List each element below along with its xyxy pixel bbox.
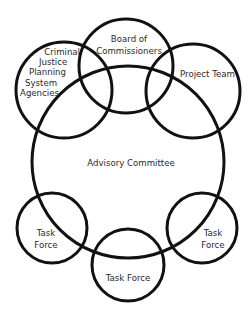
- task-force-right-label: Task Force: [201, 228, 224, 250]
- cj-line-4: System: [25, 78, 57, 88]
- project-team-label: Project Team: [180, 69, 235, 79]
- tf-left-line-1: Task: [36, 228, 56, 238]
- board-line-1: Board of: [111, 34, 148, 44]
- tf-right-line-2: Force: [201, 240, 224, 250]
- tf-left-line-2: Force: [34, 240, 57, 250]
- board-line-2: Commissioners: [96, 46, 162, 56]
- task-force-left-label: Task Force: [34, 228, 57, 250]
- advisory-committee-label: Advisory Committee: [87, 158, 174, 168]
- task-force-bottom-circle: [92, 229, 164, 301]
- tf-right-line-1: Task: [203, 228, 223, 238]
- cj-line-3: Planning: [29, 67, 66, 77]
- task-force-right-circle: [167, 193, 237, 263]
- cj-line-2: Justice: [38, 57, 67, 67]
- criminal-justice-label: Criminal Justice Planning System Agencie…: [20, 47, 80, 98]
- cj-line-5: Agencies: [20, 88, 59, 98]
- org-venn-diagram: Criminal Justice Planning System Agencie…: [0, 0, 252, 322]
- cj-line-1: Criminal: [44, 47, 80, 57]
- board-label: Board of Commissioners: [96, 34, 162, 56]
- task-force-bottom-label: Task Force: [105, 273, 151, 283]
